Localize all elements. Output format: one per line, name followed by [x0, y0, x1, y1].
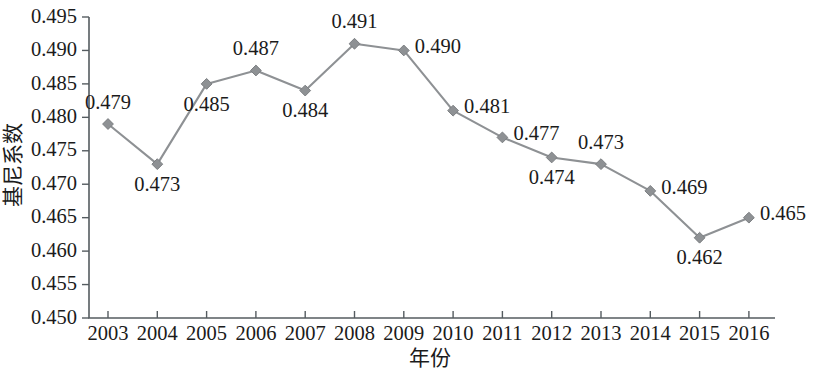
y-axis-ticks: 0.4500.4550.4600.4650.4700.4750.4800.485… [31, 5, 89, 328]
x-tick-label: 2007 [285, 322, 326, 344]
data-point-label: 0.473 [134, 173, 180, 195]
chart-page: 0.4500.4550.4600.4650.4700.4750.4800.485… [0, 0, 823, 372]
x-tick-label: 2011 [482, 322, 522, 344]
data-point-marker [497, 132, 508, 143]
y-tick-label: 0.455 [31, 272, 77, 294]
y-tick-label: 0.490 [31, 38, 77, 60]
data-point-label: 0.473 [578, 131, 624, 153]
data-point-labels: 0.4790.4730.4850.4870.4840.4910.4900.481… [85, 10, 806, 268]
data-point-label: 0.477 [513, 122, 559, 144]
x-tick-label: 2006 [235, 322, 276, 344]
y-tick-label: 0.470 [31, 172, 77, 194]
data-point-marker [546, 152, 557, 163]
x-tick-label: 2016 [728, 322, 769, 344]
data-point-marker [744, 212, 755, 223]
data-point-label: 0.474 [529, 166, 575, 188]
y-tick-label: 0.465 [31, 205, 77, 227]
data-point-label: 0.487 [233, 37, 279, 59]
data-point-label: 0.479 [85, 91, 131, 113]
x-tick-label: 2012 [531, 322, 572, 344]
y-tick-label: 0.495 [31, 5, 77, 27]
data-point-label: 0.490 [415, 35, 461, 57]
data-point-label: 0.484 [282, 99, 328, 121]
x-axis-ticks: 2003200420052006200720082009201020112012… [88, 311, 770, 344]
gini-series-line [108, 44, 749, 238]
y-tick-label: 0.475 [31, 138, 77, 160]
data-point-label: 0.491 [331, 10, 377, 32]
x-tick-label: 2008 [334, 322, 375, 344]
data-point-label: 0.485 [184, 93, 230, 115]
x-axis-title: 年份 [409, 346, 451, 370]
gini-line-chart: 0.4500.4550.4600.4650.4700.4750.4800.485… [0, 0, 823, 372]
data-point-label: 0.481 [464, 95, 510, 117]
y-tick-label: 0.450 [31, 306, 77, 328]
x-tick-label: 2003 [88, 322, 129, 344]
x-tick-label: 2015 [679, 322, 720, 344]
y-tick-label: 0.485 [31, 72, 77, 94]
data-point-marker [251, 65, 262, 76]
y-tick-label: 0.460 [31, 239, 77, 261]
y-tick-label: 0.480 [31, 105, 77, 127]
y-axis-title: 基尼系数 [1, 123, 25, 207]
x-tick-label: 2014 [630, 322, 671, 344]
axis-lines [89, 17, 775, 318]
data-point-marker [596, 159, 607, 170]
data-point-marker [201, 78, 212, 89]
x-tick-label: 2004 [137, 322, 178, 344]
data-point-markers [103, 38, 755, 243]
x-tick-label: 2005 [186, 322, 227, 344]
data-point-label: 0.462 [677, 246, 723, 268]
data-point-label: 0.469 [661, 176, 707, 198]
x-tick-label: 2010 [433, 322, 474, 344]
x-tick-label: 2009 [383, 322, 424, 344]
data-point-label: 0.465 [760, 202, 806, 224]
x-tick-label: 2013 [581, 322, 622, 344]
